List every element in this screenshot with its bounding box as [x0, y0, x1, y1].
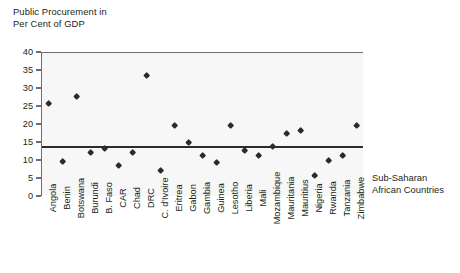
plot-area — [41, 52, 363, 196]
x-axis-tick-label: Burundi — [83, 196, 97, 270]
x-axis-tick-label: Angola — [41, 196, 55, 270]
data-point — [45, 100, 53, 108]
x-axis-tick-label: Mauritania — [279, 196, 293, 270]
y-axis: 0510152025303540 — [0, 52, 41, 196]
chart-title: Public Procurement in Per Cent of GDP — [13, 6, 107, 30]
y-axis-tick-mark — [36, 195, 41, 196]
y-axis-tick-mark — [36, 51, 41, 52]
y-axis-tick-mark — [36, 123, 41, 124]
procurement-scatter-chart: Public Procurement in Per Cent of GDP 05… — [0, 0, 460, 273]
x-axis-tick-label: Rwanda — [321, 196, 335, 270]
data-point — [199, 152, 207, 160]
y-axis-tick-label: 35 — [23, 64, 33, 77]
y-axis-tick-label: 5 — [28, 172, 33, 185]
data-point — [129, 149, 137, 157]
data-point — [241, 147, 249, 155]
y-axis-tick-mark — [36, 69, 41, 70]
x-axis-tick-label: Mali — [251, 196, 265, 270]
x-axis-tick-label: B. Faso — [97, 196, 111, 270]
plot-inner — [42, 53, 363, 196]
x-axis-tick-label-text: Zimbabwe — [356, 177, 366, 219]
y-axis-tick-label: 10 — [23, 154, 33, 167]
data-point — [213, 159, 221, 167]
x-axis-tick-label: Gambia — [195, 196, 209, 270]
x-axis-caption: Sub-Saharan African Countries — [372, 172, 444, 196]
data-point — [115, 162, 123, 170]
mean-reference-line — [42, 146, 363, 148]
x-axis-tick-label: Mauritius — [293, 196, 307, 270]
data-point — [227, 122, 235, 130]
y-axis-tick-label: 40 — [23, 46, 33, 59]
data-point — [73, 93, 81, 101]
x-axis-tick-label: CAR — [111, 196, 125, 270]
x-axis-tick-label: Liberia — [237, 196, 251, 270]
y-axis-tick-mark — [36, 87, 41, 88]
data-point — [311, 172, 319, 180]
y-axis-tick-label: 20 — [23, 118, 33, 131]
x-axis-tick-label: Botswana — [69, 196, 83, 270]
x-axis-tick-label: Benin — [55, 196, 69, 270]
data-point — [157, 167, 165, 175]
data-point — [325, 157, 333, 165]
x-axis-tick-label: DRC — [139, 196, 153, 270]
data-point — [339, 151, 347, 159]
data-point — [255, 151, 263, 159]
x-axis-tick-label: C. d'Ivoire — [153, 196, 167, 270]
x-axis-tick-label: Lesotho — [223, 196, 237, 270]
x-axis-tick-label: Guinea — [209, 196, 223, 270]
x-axis-tick-label: Tanzania — [335, 196, 349, 270]
y-axis-tick-mark — [36, 177, 41, 178]
x-axis: AngolaBeninBotswanaBurundiB. FasoCARChad… — [41, 196, 363, 273]
data-point — [171, 122, 179, 130]
y-axis-tick-label: 0 — [28, 190, 33, 203]
data-point — [297, 127, 305, 135]
data-point — [143, 72, 151, 80]
y-axis-tick-label: 25 — [23, 100, 33, 113]
y-axis-tick-mark — [36, 159, 41, 160]
x-axis-tick-label: Mozambique — [265, 196, 279, 270]
y-axis-tick-mark — [36, 105, 41, 106]
data-point — [269, 143, 277, 151]
y-axis-tick-mark — [36, 141, 41, 142]
x-axis-tick-label: Chad — [125, 196, 139, 270]
y-axis-tick-label: 30 — [23, 82, 33, 95]
x-axis-tick-label: Nigeria — [307, 196, 321, 270]
data-point — [87, 149, 95, 157]
data-point — [283, 130, 291, 138]
x-axis-tick-label: Zimbabwe — [349, 196, 363, 270]
x-axis-tick-label: Eritrea — [167, 196, 181, 270]
y-axis-tick-label: 15 — [23, 136, 33, 149]
data-point — [59, 158, 67, 166]
data-point — [353, 122, 361, 130]
x-axis-tick-label: Gabon — [181, 196, 195, 270]
